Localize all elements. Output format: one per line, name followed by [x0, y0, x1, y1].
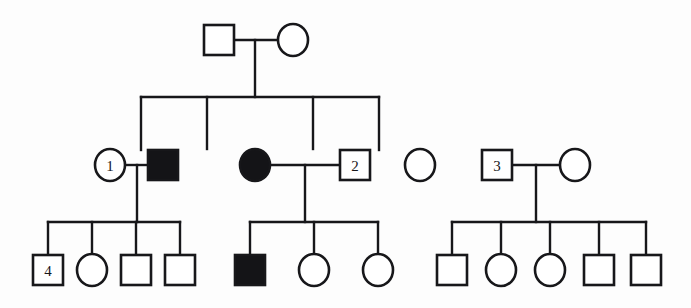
symbol-square-male-unaffected [165, 255, 195, 285]
individual-III-10 [535, 254, 565, 286]
individual-label-1: 1 [106, 158, 114, 174]
individual-label-2: 2 [351, 158, 359, 174]
individual-III-11 [584, 255, 614, 285]
symbol-circle-female-unaffected [535, 254, 565, 286]
individual-III-9 [486, 254, 516, 286]
symbol-square-male-unaffected [631, 255, 661, 285]
individual-III-12 [631, 255, 661, 285]
pedigree-canvas: 1234 [0, 0, 691, 308]
individual-III-1: 4 [33, 255, 63, 285]
individual-II-3 [240, 149, 270, 181]
symbol-square-male-unaffected [584, 255, 614, 285]
individual-II-6: 3 [482, 150, 512, 180]
individual-III-2 [77, 254, 107, 286]
connector-lines-layer [48, 40, 646, 255]
symbol-circle-female-unaffected [77, 254, 107, 286]
individual-II-2 [148, 150, 178, 180]
symbol-circle-female-unaffected [299, 254, 329, 286]
individual-III-6 [299, 254, 329, 286]
individual-II-1: 1 [95, 149, 125, 181]
individual-label-4: 4 [44, 263, 52, 279]
individual-I-1 [204, 25, 234, 55]
individual-II-5 [405, 149, 435, 181]
individual-III-3 [121, 255, 151, 285]
individual-I-2 [278, 24, 308, 56]
individual-II-4: 2 [340, 150, 370, 180]
individual-III-5 [235, 255, 265, 285]
symbol-square-male-unaffected [121, 255, 151, 285]
symbol-square-male-affected [148, 150, 178, 180]
symbol-circle-female-unaffected [405, 149, 435, 181]
symbol-circle-female-unaffected [363, 254, 393, 286]
symbol-circle-female-affected [240, 149, 270, 181]
individual-III-8 [437, 255, 467, 285]
individual-symbols-layer: 1234 [33, 24, 661, 286]
pedigree-chart: 1234 [0, 0, 691, 308]
individual-III-7 [363, 254, 393, 286]
symbol-square-male-unaffected [437, 255, 467, 285]
individual-II-7 [560, 149, 590, 181]
symbol-circle-female-unaffected [560, 149, 590, 181]
symbol-circle-female-unaffected [486, 254, 516, 286]
symbol-square-male-unaffected [204, 25, 234, 55]
symbol-circle-female-unaffected [278, 24, 308, 56]
symbol-square-male-affected [235, 255, 265, 285]
individual-label-3: 3 [493, 158, 501, 174]
individual-III-4 [165, 255, 195, 285]
